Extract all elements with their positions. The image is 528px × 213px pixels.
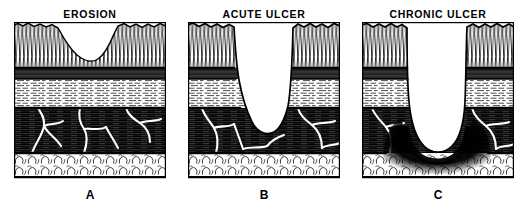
tissue-stack-acute-ulcer xyxy=(188,22,340,178)
layer-mucosa xyxy=(362,22,514,68)
layer-muscularis-propria xyxy=(14,108,166,153)
layer-mucosa xyxy=(188,22,340,68)
layer-muscularis-mucosae xyxy=(362,68,514,79)
layer-submucosa xyxy=(188,79,340,108)
panel-artwork-chronic-ulcer xyxy=(362,22,514,180)
panel-title-acute-ulcer: ACUTE ULCER xyxy=(188,8,340,20)
panel-letter-b: B xyxy=(188,188,340,202)
panel-letter-a: A xyxy=(14,188,166,202)
panel-artwork-acute-ulcer xyxy=(188,22,340,180)
layer-submucosa xyxy=(14,79,166,108)
panel-chronic-ulcer: CHRONIC ULCER xyxy=(362,0,514,213)
layer-serosa xyxy=(14,153,166,178)
ulcer-progression-figure: EROSION xyxy=(0,0,528,213)
panel-artwork-erosion xyxy=(14,22,166,180)
panel-erosion: EROSION xyxy=(14,0,166,213)
tissue-stack-erosion xyxy=(14,22,166,178)
panel-title-chronic-ulcer: CHRONIC ULCER xyxy=(362,8,514,20)
fibrotic-scar-base xyxy=(383,118,491,174)
layer-muscularis-mucosae xyxy=(188,68,340,79)
panel-acute-ulcer: ACUTE ULCER xyxy=(188,0,340,213)
layer-serosa xyxy=(188,153,340,178)
layer-submucosa xyxy=(362,79,514,108)
panel-title-erosion: EROSION xyxy=(14,8,166,20)
panel-letter-c: C xyxy=(362,188,514,202)
layer-muscularis-mucosae xyxy=(14,68,166,79)
